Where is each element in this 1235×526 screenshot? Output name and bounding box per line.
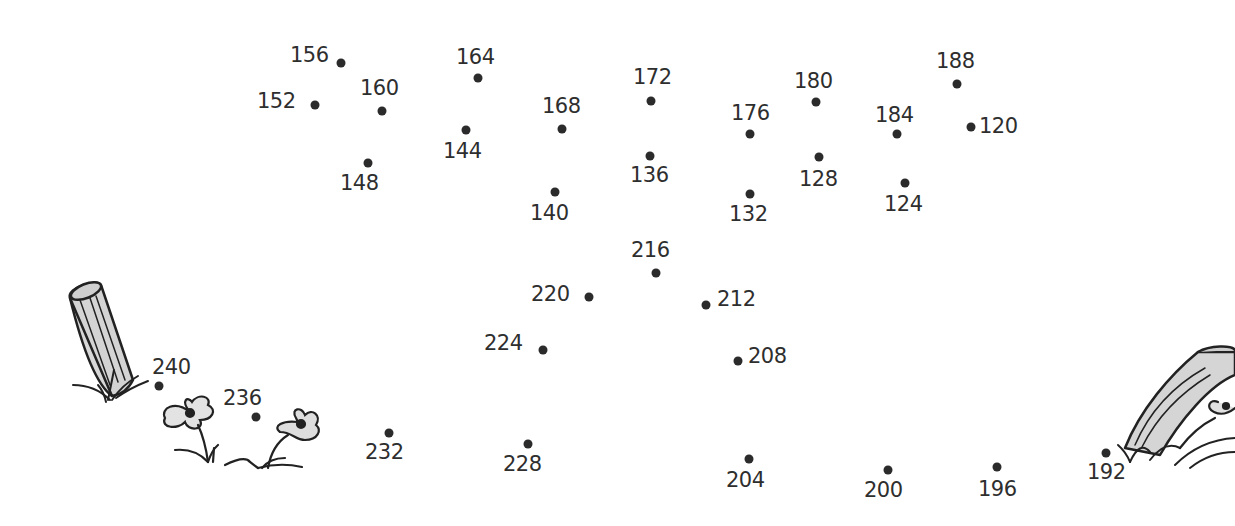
- dot-label-136: 136: [630, 165, 669, 186]
- dot-point-216: [652, 269, 661, 278]
- dot-label-120: 120: [979, 116, 1018, 137]
- dot-label-212: 212: [717, 289, 756, 310]
- dot-point-224: [539, 346, 548, 355]
- dot-label-172: 172: [633, 67, 672, 88]
- dot-label-216: 216: [631, 240, 670, 261]
- dot-point-148: [364, 159, 373, 168]
- dot-label-128: 128: [799, 169, 838, 190]
- dot-point-208: [734, 357, 743, 366]
- dot-point-128: [815, 153, 824, 162]
- dot-label-152: 152: [257, 91, 296, 112]
- dot-label-140: 140: [530, 203, 569, 224]
- dot-point-196: [993, 463, 1002, 472]
- dot-point-236: [252, 413, 261, 422]
- dot-label-220: 220: [531, 284, 570, 305]
- dot-point-204: [745, 455, 754, 464]
- dot-label-124: 124: [884, 194, 923, 215]
- dot-label-196: 196: [978, 479, 1017, 500]
- dot-label-200: 200: [864, 480, 903, 501]
- dot-label-192: 192: [1087, 462, 1126, 483]
- dot-label-180: 180: [794, 71, 833, 92]
- dot-label-144: 144: [443, 141, 482, 162]
- dot-label-240: 240: [152, 357, 191, 378]
- dot-point-180: [812, 98, 821, 107]
- dot-label-132: 132: [729, 204, 768, 225]
- dot-point-144: [462, 126, 471, 135]
- dot-point-200: [884, 466, 893, 475]
- dot-point-152: [311, 101, 320, 110]
- dot-point-140: [551, 188, 560, 197]
- dot-label-204: 204: [726, 470, 765, 491]
- dot-label-224: 224: [484, 333, 523, 354]
- dot-point-124: [901, 179, 910, 188]
- dot-label-156: 156: [290, 45, 329, 66]
- dot-point-160: [378, 107, 387, 116]
- dot-to-dot-canvas: 1201241281321361401441481521561601641681…: [0, 0, 1235, 526]
- dot-point-136: [646, 152, 655, 161]
- dot-point-120: [967, 123, 976, 132]
- dot-label-208: 208: [748, 346, 787, 367]
- dot-point-172: [647, 97, 656, 106]
- dot-point-156: [337, 59, 346, 68]
- dot-label-148: 148: [340, 173, 379, 194]
- dot-point-192: [1102, 449, 1111, 458]
- dot-point-212: [702, 301, 711, 310]
- flower-icon: [225, 409, 319, 468]
- dot-label-228: 228: [503, 454, 542, 475]
- dot-label-168: 168: [542, 96, 581, 117]
- dot-label-184: 184: [875, 105, 914, 126]
- dot-label-232: 232: [365, 442, 404, 463]
- dot-point-168: [558, 125, 567, 134]
- dot-point-240: [155, 382, 164, 391]
- dot-label-188: 188: [936, 51, 975, 72]
- dot-label-160: 160: [360, 78, 399, 99]
- right-log-stump-icon: [1125, 346, 1235, 455]
- dot-point-164: [474, 74, 483, 83]
- left-log-stump-icon: [69, 279, 133, 396]
- dot-point-232: [385, 429, 394, 438]
- dot-point-228: [524, 440, 533, 449]
- dot-point-188: [953, 80, 962, 89]
- dot-point-220: [585, 293, 594, 302]
- dot-label-236: 236: [223, 388, 262, 409]
- dot-point-184: [893, 130, 902, 139]
- dot-label-176: 176: [731, 103, 770, 124]
- dot-point-132: [746, 190, 755, 199]
- dot-label-164: 164: [456, 47, 495, 68]
- dot-point-176: [746, 130, 755, 139]
- background-illustration: [0, 0, 1235, 526]
- flower-icon: [164, 397, 218, 462]
